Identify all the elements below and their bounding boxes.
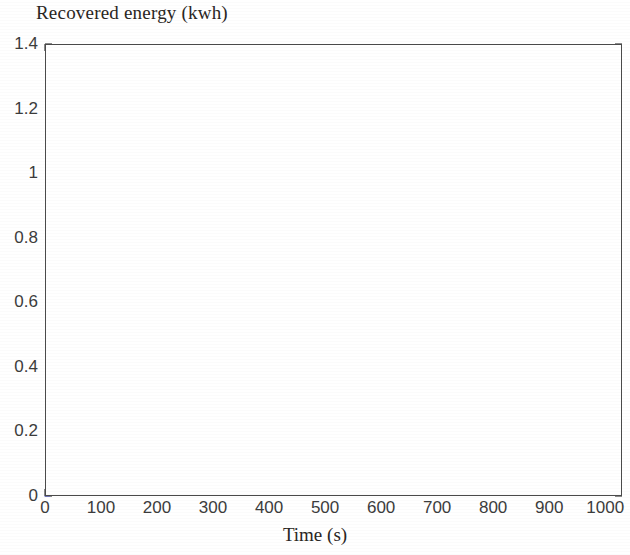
y-tick-label: 1 xyxy=(4,163,38,183)
y-tick-label: 0.6 xyxy=(4,292,38,312)
x-tick-label: 400 xyxy=(255,498,283,518)
chart-figure: Recovered energy (kwh) 00.20.40.60.811.2… xyxy=(0,0,630,555)
y-axis-tick-labels: 00.20.40.60.811.21.4 xyxy=(0,0,630,520)
y-tick-label: 1.4 xyxy=(4,34,38,54)
x-tick-label: 100 xyxy=(87,498,115,518)
x-tick-label: 0 xyxy=(40,498,49,518)
x-tick-label: 1000 xyxy=(586,498,624,518)
x-tick-label: 800 xyxy=(479,498,507,518)
x-tick-label: 900 xyxy=(535,498,563,518)
y-tick-label: 0 xyxy=(4,486,38,506)
x-tick-label: 700 xyxy=(423,498,451,518)
x-axis-title: Time (s) xyxy=(0,524,630,546)
x-tick-label: 500 xyxy=(311,498,339,518)
y-tick-label: 1.2 xyxy=(4,99,38,119)
y-tick-label: 0.2 xyxy=(4,421,38,441)
y-tick-label: 0.8 xyxy=(4,228,38,248)
plot-area-wrapper: 00.20.40.60.811.21.4 0100200300400500600… xyxy=(0,0,630,520)
x-tick-label: 200 xyxy=(143,498,171,518)
x-tick-label: 600 xyxy=(367,498,395,518)
x-tick-label: 300 xyxy=(199,498,227,518)
y-tick-label: 0.4 xyxy=(4,357,38,377)
